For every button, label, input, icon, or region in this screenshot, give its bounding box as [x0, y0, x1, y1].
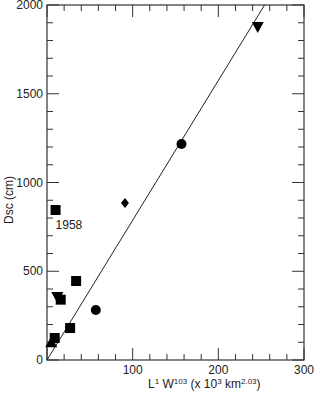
x-tick-label: 300: [294, 363, 314, 377]
square-marker: [71, 276, 81, 286]
circle-marker: [91, 305, 101, 315]
y-tick-label: 0: [36, 353, 43, 367]
y-tick-label: 1000: [16, 176, 43, 190]
annotations: 1958: [56, 218, 83, 232]
plot-frame: [47, 5, 304, 360]
chart: 1002003000500100015002000 1958 Dsc (cm) …: [0, 0, 320, 398]
tick-labels: 1002003000500100015002000: [16, 0, 314, 377]
annotation-label: 1958: [56, 218, 83, 232]
y-axis-title: Dsc (cm): [2, 176, 16, 224]
fit-line: [47, 5, 265, 360]
circle-marker: [176, 139, 186, 149]
square-marker: [65, 323, 75, 333]
triangle-down-marker: [252, 22, 264, 33]
axis-ticks: [47, 5, 304, 360]
diamond-marker: [121, 198, 129, 208]
square-marker: [51, 205, 61, 215]
x-tick-label: 100: [123, 363, 143, 377]
y-tick-label: 2000: [16, 0, 43, 12]
y-tick-label: 1500: [16, 87, 43, 101]
y-tick-label: 500: [23, 264, 43, 278]
x-axis-title: L1 W103 (x 103 km2.03): [148, 377, 261, 392]
x-tick-label: 200: [208, 363, 228, 377]
